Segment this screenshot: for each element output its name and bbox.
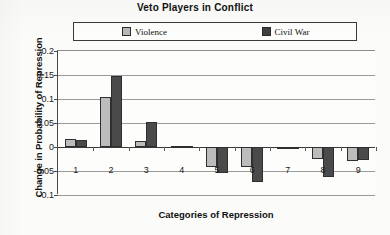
y-axis-tick	[54, 195, 58, 196]
x-axis-tick-label: 3	[144, 165, 149, 175]
x-axis-tick	[164, 147, 165, 151]
x-axis-tick-label: 8	[320, 165, 325, 175]
x-axis-tick	[235, 147, 236, 151]
x-axis-tick	[341, 147, 342, 151]
bar-violence-4	[171, 146, 182, 148]
x-axis-tick	[305, 147, 306, 151]
x-axis-tick	[270, 147, 271, 151]
bar-civil-war-4	[182, 146, 193, 148]
chart-figure: Veto Players in Conflict Violence Civil …	[0, 0, 390, 235]
chart-legend: Violence Civil War	[73, 22, 357, 41]
dark-gray-square-icon	[262, 27, 271, 36]
legend-label-violence: Violence	[135, 27, 167, 37]
legend-entry-violence: Violence	[74, 27, 215, 37]
x-axis-tick-label: 9	[356, 165, 361, 175]
chart-title: Veto Players in Conflict	[0, 2, 390, 13]
x-axis-tick-label: 7	[285, 165, 290, 175]
gridline	[58, 195, 375, 196]
light-gray-square-icon	[122, 27, 131, 36]
bar-violence-9	[347, 147, 358, 161]
x-axis-tick	[129, 147, 130, 151]
legend-label-civil-war: Civil War	[275, 27, 310, 37]
x-axis-title: Categories of Repression	[57, 209, 375, 220]
y-axis-tick-label: -0.1	[38, 190, 54, 200]
plot-area: 0.20.150.10.050-0.05-0.1 123456789	[57, 50, 375, 194]
x-axis-tick	[93, 147, 94, 151]
bar-violence-2	[100, 97, 111, 147]
bar-violence-8	[312, 147, 323, 159]
y-axis-tick-label: 0.2	[41, 46, 54, 56]
x-axis-tick-label: 2	[108, 165, 113, 175]
x-axis-tick	[199, 147, 200, 151]
x-axis-tick	[376, 147, 377, 151]
bar-civil-war-3	[146, 122, 157, 147]
y-axis-tick-label: 0.1	[41, 94, 54, 104]
x-axis-tick-label: 6	[250, 165, 255, 175]
x-axis-tick-label: 5	[214, 165, 219, 175]
bar-civil-war-7	[288, 147, 299, 149]
y-axis-tick-label: 0.15	[36, 70, 54, 80]
y-axis-tick-label: 0	[49, 142, 54, 152]
x-axis-tick-label: 1	[73, 165, 78, 175]
x-axis-tick-label: 4	[179, 165, 184, 175]
bar-violence-7	[277, 147, 288, 149]
bar-civil-war-2	[111, 76, 122, 147]
bar-civil-war-1	[76, 140, 87, 147]
bar-civil-war-9	[358, 147, 369, 160]
bar-violence-1	[65, 139, 76, 147]
bar-violence-3	[135, 141, 146, 147]
legend-entry-civil-war: Civil War	[215, 27, 356, 37]
y-axis-tick-label: -0.05	[33, 166, 54, 176]
y-axis-tick-label: 0.05	[36, 118, 54, 128]
